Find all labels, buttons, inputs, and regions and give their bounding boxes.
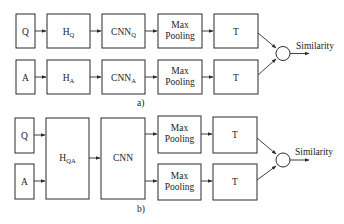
similarity-node bbox=[276, 153, 290, 167]
transform-label: T bbox=[233, 27, 239, 37]
transform-label: T bbox=[232, 130, 238, 140]
arrow bbox=[258, 33, 276, 48]
similarity-label: Similarity bbox=[295, 147, 333, 157]
input-a-label: A bbox=[22, 73, 29, 83]
row-a-answer: A HA CNNA Max Pooling T bbox=[16, 59, 276, 94]
max-pooling-label-line2: Pooling bbox=[165, 31, 195, 41]
transform-label: T bbox=[232, 177, 238, 187]
diagram-canvas: Q HQ CNNQ Max Pooling T A HA CNN bbox=[0, 0, 344, 224]
caption-b: b) bbox=[137, 204, 145, 215]
max-pooling-label-line1: Max bbox=[171, 20, 189, 30]
transform-label: T bbox=[233, 73, 239, 83]
cnn-label: CNN bbox=[113, 153, 133, 163]
max-pooling-label-line1: Max bbox=[171, 66, 189, 76]
max-pooling-label-line2: Pooling bbox=[165, 182, 195, 192]
arrow bbox=[258, 59, 276, 75]
input-q-label: Q bbox=[22, 27, 29, 37]
max-pooling-label-line1: Max bbox=[171, 123, 189, 133]
similarity-label: Similarity bbox=[296, 41, 334, 51]
diagram-a: Q HQ CNNQ Max Pooling T A HA CNN bbox=[16, 14, 334, 109]
input-q-label: Q bbox=[21, 131, 28, 141]
max-pooling-label-line2: Pooling bbox=[165, 134, 195, 144]
max-pooling-label-line1: Max bbox=[171, 171, 189, 181]
arrow bbox=[257, 166, 276, 180]
row-a-question: Q HQ CNNQ Max Pooling T bbox=[16, 14, 276, 48]
input-a-label: A bbox=[21, 177, 28, 187]
diagram-b: Q A HQA CNN Max Pooling Max Pooling T T … bbox=[15, 116, 333, 215]
arrow bbox=[257, 138, 276, 154]
caption-a: a) bbox=[137, 98, 144, 109]
max-pooling-label-line2: Pooling bbox=[165, 77, 195, 87]
similarity-node bbox=[276, 47, 290, 61]
